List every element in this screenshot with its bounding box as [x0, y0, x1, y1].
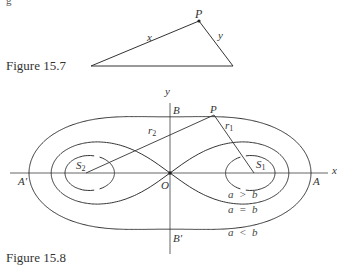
radius-r1 — [214, 115, 254, 173]
label-b-prime: B′ — [173, 233, 182, 244]
figure-15-7-caption: Figure 15.7 — [6, 58, 66, 74]
label-s2: S2 — [76, 160, 86, 173]
x-axis-label: x — [332, 165, 337, 176]
label-b: B — [173, 105, 180, 116]
label-a: A — [313, 176, 320, 187]
triangle-label-x: x — [147, 32, 152, 43]
label-a-equal-b: a = b — [228, 203, 257, 215]
label-a-prime: A′ — [18, 176, 27, 187]
label-s1: S1 — [256, 159, 266, 172]
triangle-label-p: P — [195, 8, 202, 20]
label-r2: r2 — [148, 125, 156, 138]
label-r1: r1 — [225, 120, 233, 133]
origin-dot — [168, 171, 172, 175]
figure-canvas — [0, 0, 346, 267]
label-p: P — [210, 104, 217, 115]
triangle — [91, 21, 233, 66]
figure-15-8-caption: Figure 15.8 — [6, 250, 66, 266]
label-o: O — [161, 180, 169, 191]
label-a-less-b: a < b — [228, 226, 257, 238]
y-axis-label: y — [165, 86, 170, 97]
triangle-label-y: y — [218, 30, 223, 41]
label-a-greater-b: a > b — [228, 188, 257, 200]
